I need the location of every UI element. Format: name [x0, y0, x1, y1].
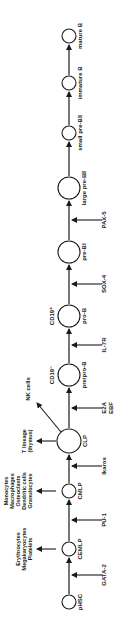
- stage-label: immature B: [77, 66, 83, 100]
- stage-node-pre-bi: [58, 241, 80, 263]
- factor-label: PU-1: [101, 513, 107, 527]
- factor-label: IL-7R: [101, 337, 107, 353]
- stage-node-small-pre-bii: [62, 126, 76, 140]
- factor-label: E2A: [101, 401, 107, 413]
- stage-node-pro-b: [58, 305, 80, 327]
- b-cell-differentiation-diagram: pHSCCEMLPCMLPCLPpre/pro-BCD19⁻pro-BCD19⁺…: [0, 0, 126, 623]
- stage-label: CMLP: [77, 483, 83, 500]
- branch-arrow-nk: [37, 403, 61, 432]
- stage-node-prepro-b: [58, 364, 80, 386]
- factor-label: EBF: [108, 402, 114, 414]
- stage-label: mature B: [77, 22, 83, 49]
- stage-node-clp: [57, 429, 81, 453]
- cd19-marker-label: CD19⁺: [49, 307, 55, 325]
- stage-label: pre/pro-B: [81, 361, 87, 389]
- stage-label: large pre-BⅡ: [81, 171, 87, 206]
- stage-label: pro-B: [81, 307, 87, 324]
- branch-label: Platelets: [27, 538, 33, 561]
- factor-label: PAX-5: [101, 211, 107, 229]
- stage-label: pre-BⅠ: [81, 243, 87, 261]
- cd19-marker-label: CD19⁻: [49, 366, 55, 384]
- stage-label: pHSC: [77, 593, 83, 610]
- factor-label: GATA-2: [101, 564, 107, 586]
- stage-label: small pre-BⅡ: [77, 115, 83, 151]
- factor-label: Ikaros: [101, 457, 107, 475]
- branch-label: Granulocytes: [27, 473, 33, 508]
- branch-label-nk-cells: NK cells: [25, 377, 31, 401]
- stage-node-large-pre-bii: [58, 177, 80, 199]
- factor-label: SOX-4: [101, 274, 107, 293]
- stage-node-immature-b: [62, 76, 76, 90]
- branch-label: (thymus): [27, 429, 33, 452]
- stage-node-mature-b: [62, 29, 76, 43]
- stage-node-cemlp: [62, 542, 76, 556]
- stage-node-cmlp: [62, 484, 76, 498]
- stage-label: CLP: [82, 435, 88, 447]
- stage-label: CEMLP: [77, 539, 83, 560]
- stage-node-phsc: [62, 595, 76, 609]
